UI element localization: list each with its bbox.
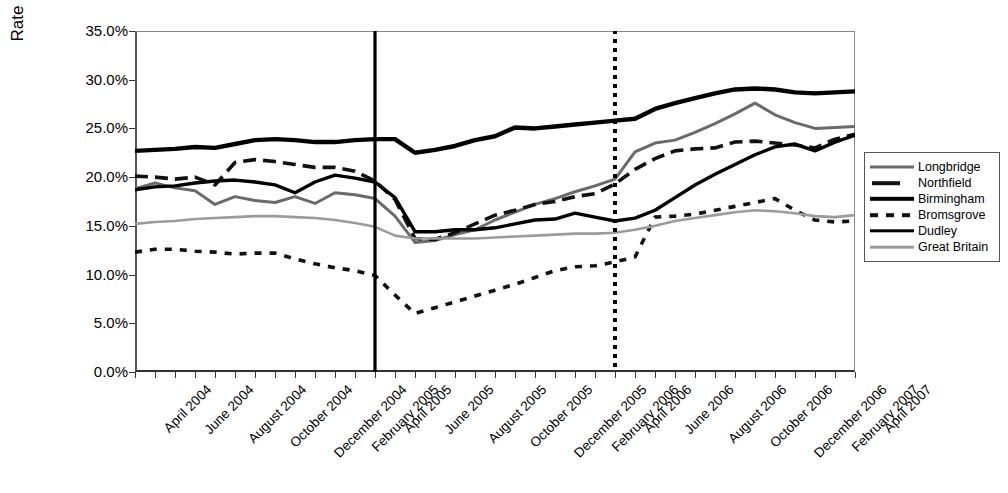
x-axis-tick-mark xyxy=(595,372,596,378)
x-axis-tick-mark xyxy=(675,372,676,378)
x-axis-tick-mark xyxy=(415,372,416,378)
legend-line-sample xyxy=(870,229,914,232)
legend-label: Birmingham xyxy=(918,193,985,206)
x-axis-tick-mark xyxy=(495,372,496,378)
legend-swatch-longbridge xyxy=(870,161,914,173)
x-axis-tick-mark xyxy=(655,372,656,378)
x-axis-tick-mark xyxy=(235,372,236,378)
x-axis-tick-mark xyxy=(135,372,136,378)
legend-label: Longbridge xyxy=(918,161,981,174)
x-axis-tick-mark xyxy=(395,372,396,378)
x-axis-tick-mark xyxy=(555,372,556,378)
x-axis-tick-mark xyxy=(215,372,216,378)
x-axis-tick-mark xyxy=(295,372,296,378)
x-axis-tick-mark xyxy=(475,372,476,378)
x-axis-tick-mark xyxy=(315,372,316,378)
x-axis-tick-mark xyxy=(775,372,776,378)
x-axis-tick-mark xyxy=(195,372,196,378)
x-axis-tick-mark xyxy=(715,372,716,378)
x-axis-tick-mark xyxy=(855,372,856,378)
legend-label: Bromsgrove xyxy=(918,209,985,222)
x-axis-tick-mark xyxy=(795,372,796,378)
x-axis-tick-mark xyxy=(275,372,276,378)
legend-line-sample xyxy=(870,166,914,169)
chart-container: Rate (% of all JSA Claimants) 35.0%30.0%… xyxy=(0,0,1008,493)
chart-legend: LongbridgeNorthfieldBirminghamBromsgrove… xyxy=(864,152,1000,262)
legend-item: Great Britain xyxy=(870,239,994,255)
legend-item: Longbridge xyxy=(870,159,994,175)
legend-item: Birmingham xyxy=(870,191,994,207)
legend-swatch-dudley xyxy=(870,225,914,237)
x-axis-tick-mark xyxy=(155,372,156,378)
legend-swatch-bromsgrove xyxy=(870,209,914,221)
legend-label: Dudley xyxy=(918,225,957,238)
legend-item: Dudley xyxy=(870,223,994,239)
x-axis-tick-mark xyxy=(535,372,536,378)
x-axis-tick-mark xyxy=(735,372,736,378)
x-axis-tick-mark xyxy=(635,372,636,378)
legend-line-sample xyxy=(872,181,900,185)
x-axis-tick-mark xyxy=(435,372,436,378)
x-axis: April 2004June 2004August 2004October 20… xyxy=(0,0,1008,493)
legend-line-sample xyxy=(870,213,914,217)
x-axis-tick-mark xyxy=(455,372,456,378)
legend-line-sample xyxy=(870,246,914,249)
legend-swatch-great-britain xyxy=(870,241,914,253)
legend-label: Great Britain xyxy=(918,241,988,254)
x-axis-tick-mark xyxy=(255,372,256,378)
legend-swatch-northfield xyxy=(870,177,914,189)
x-axis-tick-mark xyxy=(515,372,516,378)
x-axis-tick-mark xyxy=(815,372,816,378)
x-axis-tick-mark xyxy=(175,372,176,378)
legend-item: Northfield xyxy=(870,175,994,191)
x-axis-tick-mark xyxy=(615,372,616,378)
x-axis-tick-mark xyxy=(355,372,356,378)
x-axis-tick-mark xyxy=(335,372,336,378)
x-axis-tick-mark xyxy=(695,372,696,378)
legend-line-sample xyxy=(870,197,914,201)
legend-item: Bromsgrove xyxy=(870,207,994,223)
x-axis-tick-mark xyxy=(575,372,576,378)
legend-swatch-birmingham xyxy=(870,193,914,205)
x-axis-tick-mark xyxy=(375,372,376,378)
legend-label: Northfield xyxy=(918,177,972,190)
x-axis-tick-mark xyxy=(755,372,756,378)
x-axis-tick-mark xyxy=(835,372,836,378)
